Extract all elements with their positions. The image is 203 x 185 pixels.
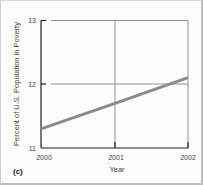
x-tick-label-2001: 2001	[108, 154, 124, 161]
x-tick-label-2002: 2002	[180, 154, 196, 161]
y-tick-label-12: 12	[28, 81, 36, 88]
x-axis-title: Year	[109, 165, 125, 174]
chart-panel: 13 12 11 2000 2001 2002 Year Percent of …	[0, 0, 203, 185]
series-line-poverty	[41, 78, 188, 129]
x-tick-label-2000: 2000	[36, 154, 52, 161]
y-axis-title: Percent of U.S. Population in Poverty	[12, 22, 21, 146]
y-tick-label-13: 13	[28, 17, 36, 24]
line-chart: 13 12 11 2000 2001 2002 Year Percent of …	[1, 1, 203, 185]
y-tick-label-11: 11	[29, 145, 36, 152]
panel-label: (c)	[13, 167, 23, 176]
